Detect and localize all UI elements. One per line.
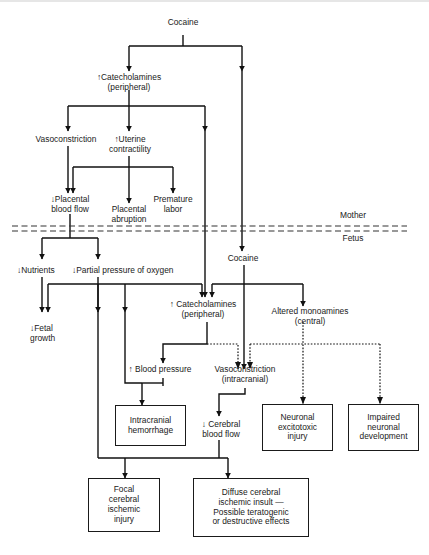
node-nutrients: ↓Nutrients — [17, 266, 55, 276]
node-fetal-growth: ↓Fetal growth — [30, 324, 55, 343]
node-catecholamines-fetus: ↑ Catecholamines (peripheral) — [170, 300, 237, 319]
box-diffuse-cerebral-ischemic-insult: Diffuse cerebral ischemic insult — Possi… — [193, 478, 309, 537]
box-impaired-neuronal-development-text: Impaired neuronal development — [360, 413, 408, 442]
flowchart-connectors — [0, 0, 429, 555]
box-focal-cerebral-ischemic-injury-text: Focal cerebral ischemic injury — [108, 485, 141, 524]
box-focal-cerebral-ischemic-injury: Focal cerebral ischemic injury — [88, 478, 160, 532]
node-premature-labor: Premature labor — [153, 195, 192, 214]
edge-fetal-cat-to-bp — [163, 322, 207, 363]
node-blood-pressure: ↑ Blood pressure — [129, 365, 192, 375]
node-altered-monoamines: Altered monoamines (central) — [272, 307, 349, 326]
box-neuronal-excitotoxic-injury: Neuronal excitotoxic injury — [262, 404, 333, 451]
node-cocaine-mother: Cocaine — [168, 18, 199, 28]
node-placental-blood-flow: ↓Placental blood flow — [51, 195, 90, 214]
node-catecholamines-mother: ↑Catecholamines (peripheral) — [97, 73, 161, 92]
node-vasoconstriction: Vasoconstriction — [36, 135, 97, 145]
node-cerebral-blood-flow: ↓ Cerebral blood flow — [202, 420, 241, 439]
box-diffuse-cerebral-ischemic-insult-text: Diffuse cerebral ischemic insult — Possi… — [212, 488, 289, 527]
node-partial-pressure-oxygen: ↓Partial pressure of oxygen — [72, 266, 173, 276]
box-intracranial-hemorrhage: Intracranial hemorrhage — [115, 405, 186, 446]
maternal-fetal-boundary — [12, 226, 407, 231]
box-intracranial-hemorrhage-text: Intracranial hemorrhage — [128, 416, 173, 436]
node-vasoconstriction-intracranial: Vasoconstriction (intracranial) — [215, 365, 276, 384]
node-cocaine-fetus: Cocaine — [228, 254, 259, 264]
label-fetus: Fetus — [343, 234, 364, 244]
edge-vaso-to-cerebral — [219, 388, 245, 416]
node-uterine-contractility: ↑Uterine contractility — [109, 135, 151, 154]
label-mother: Mother — [340, 211, 366, 221]
box-impaired-neuronal-development: Impaired neuronal development — [348, 404, 419, 451]
node-placental-abruption: Placental abruption — [112, 205, 147, 224]
box-neuronal-excitotoxic-injury-text: Neuronal excitotoxic injury — [278, 413, 317, 442]
